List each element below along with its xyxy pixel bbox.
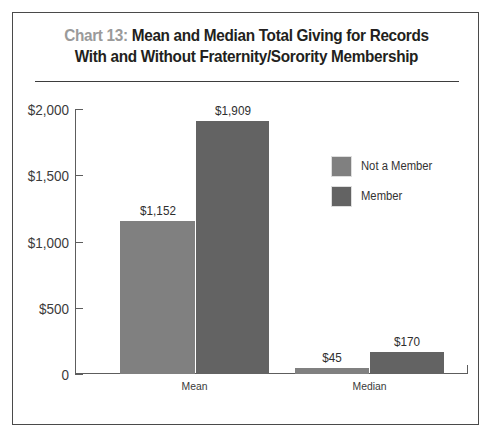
bar-value-mean-not-a-member: $1,152 — [140, 203, 176, 218]
plot-area: $2,000 $1,500 $1,000 $500 0 $1,152 $1,90… — [75, 109, 468, 374]
legend-item-not-a-member[interactable]: Not a Member — [331, 156, 440, 177]
title-divider — [35, 81, 459, 82]
y-tick-label-2000: $2,000 — [12, 100, 69, 119]
title-line-1: Mean and Median Total Giving for Records — [132, 26, 429, 44]
bar-value-mean-member: $1,909 — [215, 103, 251, 118]
chart-number-label: Chart 13: — [64, 26, 128, 44]
page-title: Chart 13: Mean and Median Total Giving f… — [39, 25, 455, 67]
bar-mean-member[interactable]: $1,909 — [196, 121, 269, 374]
chart-card: Chart 13: Mean and Median Total Giving f… — [12, 12, 479, 425]
bar-value-median-not-a-member: $45 — [322, 350, 342, 365]
legend-item-member[interactable]: Member — [331, 186, 440, 207]
x-category-label-median: Median — [302, 379, 436, 393]
bar-median-not-a-member[interactable]: $45 — [295, 368, 369, 374]
y-tick-500: $500 — [75, 308, 83, 309]
y-tick-1500: $1,500 — [75, 175, 83, 176]
legend-label-not-a-member: Not a Member — [361, 159, 432, 174]
x-category-label-mean: Mean — [127, 379, 261, 393]
y-tick-1000: $1,000 — [75, 242, 83, 243]
legend-swatch-icon-member — [331, 186, 352, 207]
chart-legend: Not a Member Member — [331, 156, 440, 216]
bar-median-member[interactable]: $170 — [370, 352, 444, 375]
y-tick-0: 0 — [75, 374, 83, 375]
bar-value-median-member: $170 — [394, 334, 420, 349]
legend-label-member: Member — [361, 189, 402, 204]
legend-swatch-icon-not-a-member — [331, 156, 352, 177]
y-tick-label-0: 0 — [12, 365, 69, 384]
y-tick-label-500: $500 — [12, 299, 69, 318]
title-line-2: With and Without Fraternity/Sorority Mem… — [75, 47, 418, 65]
bar-mean-not-a-member[interactable]: $1,152 — [120, 221, 195, 374]
y-tick-label-1000: $1,000 — [12, 233, 69, 252]
y-tick-label-1500: $1,500 — [12, 166, 69, 185]
x-axis-right-cap-tick — [467, 365, 468, 374]
y-tick-2000: $2,000 — [75, 109, 83, 110]
